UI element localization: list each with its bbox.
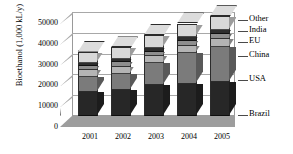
bar-segment-other <box>111 47 131 58</box>
bar-segment-china <box>210 39 230 47</box>
bar-segment-other <box>78 52 98 63</box>
legend-leader-line <box>238 20 248 21</box>
legend-label-other: Other <box>249 14 268 23</box>
legend-leader-line <box>238 80 248 81</box>
y-tick-label: 40000 <box>38 40 58 48</box>
gridline <box>72 12 235 13</box>
y-tick-label: 30000 <box>38 61 58 69</box>
floor-base <box>60 115 235 127</box>
legend-leader-line <box>238 115 248 116</box>
bar-segment-brazil <box>144 85 164 116</box>
bar-segment-usa <box>144 63 164 85</box>
bar-segment-china <box>177 46 197 53</box>
x-tick-label: 2003 <box>139 132 173 141</box>
bar-segment-china <box>111 67 131 74</box>
bar-segment-china <box>144 56 164 63</box>
bar-segment-brazil <box>177 84 197 116</box>
y-axis-tick-labels: 01000020000300004000050000 <box>20 0 58 154</box>
legend-label-usa: USA <box>249 74 266 83</box>
bar-segment-other <box>177 24 197 37</box>
bar-column <box>210 16 230 116</box>
bar-column <box>177 24 197 117</box>
legend-label-china: China <box>249 50 269 59</box>
x-tick-label: 2004 <box>172 132 206 141</box>
x-tick-label: 2005 <box>205 132 239 141</box>
bar-column <box>144 35 164 116</box>
x-tick-label: 2001 <box>73 132 107 141</box>
bar-segment-china <box>78 70 98 77</box>
bar-segment-other <box>144 35 164 48</box>
y-tick-label: 10000 <box>38 102 58 110</box>
bar-segment-brazil <box>210 82 230 116</box>
bar-segment-usa <box>210 47 230 81</box>
bar-segment-usa <box>78 77 98 92</box>
legend-leader-line <box>238 56 248 57</box>
y-tick-label: 0 <box>54 123 58 131</box>
bar-column <box>78 52 98 116</box>
bar-segment-brazil <box>111 90 131 116</box>
legend-label-brazil: Brazil <box>249 109 270 118</box>
legend-leader-line <box>238 42 248 43</box>
legend-label-india: India <box>249 25 266 34</box>
legend-leader-line <box>238 31 248 32</box>
bar-segment-usa <box>177 53 197 84</box>
y-tick-label: 20000 <box>38 81 58 89</box>
bar-segment-brazil <box>78 92 98 116</box>
bar-segment-usa <box>111 74 131 90</box>
bar-segment-other <box>210 16 230 30</box>
bioethanol-stacked-bar-chart: Bioethanol (1,000 kL/y) 0100002000030000… <box>0 0 293 154</box>
y-tick-label: 50000 <box>38 19 58 27</box>
bar-column <box>111 47 131 116</box>
legend-label-eu: EU <box>249 36 260 45</box>
x-tick-label: 2002 <box>106 132 140 141</box>
plot-area <box>60 12 235 127</box>
